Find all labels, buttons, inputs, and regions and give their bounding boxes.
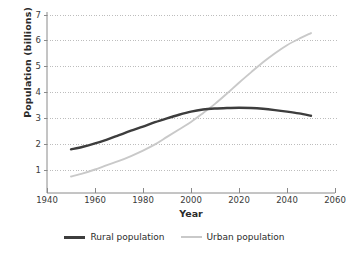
x-tick-label: 2060 xyxy=(315,196,349,205)
x-tick-label: 2020 xyxy=(219,196,259,205)
legend-item-urban[interactable]: Urban population xyxy=(181,232,285,242)
axes-group xyxy=(47,12,335,193)
legend-label: Rural population xyxy=(90,232,164,242)
legend-line-swatch xyxy=(64,236,85,239)
legend-label: Urban population xyxy=(207,232,285,242)
y-tick-label: 4 xyxy=(21,88,41,97)
y-tick-label: 1 xyxy=(21,166,41,175)
legend-item-rural[interactable]: Rural population xyxy=(64,232,164,242)
x-tick-label: 1940 xyxy=(27,196,67,205)
x-tick-label: 1960 xyxy=(75,196,115,205)
gridlines-group xyxy=(47,15,337,170)
y-tick-label: 3 xyxy=(21,114,41,123)
legend-line-swatch xyxy=(181,236,202,238)
y-tick-label: 7 xyxy=(21,11,41,20)
x-axis-title: Year xyxy=(47,208,335,219)
series-line-rural xyxy=(71,108,311,150)
chart-legend: Rural populationUrban population xyxy=(0,232,349,242)
x-tick-label: 2040 xyxy=(267,196,307,205)
x-tick-label: 2000 xyxy=(171,196,211,205)
population-line-chart: Population (billions) Year 1234567 19401… xyxy=(0,0,349,259)
data-series-group xyxy=(71,33,311,176)
plot-canvas xyxy=(0,0,349,259)
x-tick-label: 1980 xyxy=(123,196,163,205)
y-tick-label: 6 xyxy=(21,36,41,45)
y-tick-label: 5 xyxy=(21,62,41,71)
y-tick-label: 2 xyxy=(21,140,41,149)
series-line-urban xyxy=(71,33,311,176)
